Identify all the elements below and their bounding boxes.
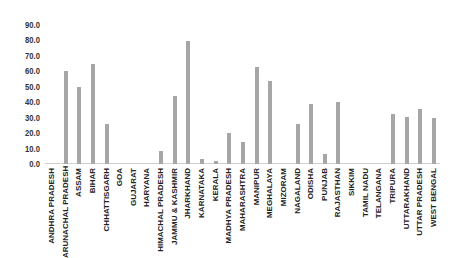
bar — [77, 87, 81, 164]
x-tick-label: TELANGANA — [374, 168, 384, 258]
x-tick-label: PUNJAB — [320, 168, 330, 258]
bar — [91, 64, 95, 164]
bar — [105, 124, 109, 164]
x-tick-label: ANDHRA PRADESH — [47, 168, 57, 258]
x-tick-label: GUJARAT — [129, 168, 139, 258]
bar — [418, 109, 422, 164]
x-tick-label: UTTAR PRADESH — [415, 168, 425, 258]
x-tick-label: RAJASTHAN — [333, 168, 343, 258]
y-tick-label: 60.0 — [6, 66, 40, 76]
x-tick-label: WEST BENGAL — [429, 168, 439, 258]
x-tick-label: ARUNACHAL PRADESH — [61, 168, 71, 258]
bar — [64, 71, 68, 164]
bar — [323, 154, 327, 164]
bar — [336, 102, 340, 164]
y-tick-label: 50.0 — [6, 82, 40, 92]
y-tick-label: 30.0 — [6, 113, 40, 123]
bar — [296, 124, 300, 164]
x-tick-label: JHARKHAND — [183, 168, 193, 258]
bar — [309, 104, 313, 164]
x-tick-label: NAGALAND — [293, 168, 303, 258]
x-tick-label: ASSAM — [74, 168, 84, 258]
x-tick-label: JAMMU & KASHMIR — [170, 168, 180, 258]
y-tick-label: 90.0 — [6, 20, 40, 30]
y-tick-label: 20.0 — [6, 128, 40, 138]
bar — [391, 114, 395, 164]
x-tick-label: BIHAR — [88, 168, 98, 258]
y-tick-label: 0.0 — [6, 159, 40, 169]
bar — [173, 96, 177, 164]
y-tick-label: 80.0 — [6, 35, 40, 45]
x-tick-label: TRIPURA — [388, 168, 398, 258]
x-tick-label: MADHYA PRADESH — [224, 168, 234, 258]
bar — [227, 133, 231, 164]
x-tick-label: MANIPUR — [252, 168, 262, 258]
y-tick-label: 10.0 — [6, 144, 40, 154]
y-tick-label: 40.0 — [6, 97, 40, 107]
x-tick-label: MAHARASHTRA — [238, 168, 248, 258]
x-tick-label: MEGHALAYA — [265, 168, 275, 258]
x-tick-label: MIZORAM — [279, 168, 289, 258]
bar — [268, 81, 272, 164]
bar — [241, 142, 245, 164]
x-tick-label: ODISHA — [306, 168, 316, 258]
x-tick-label: GOA — [115, 168, 125, 258]
x-tick-label: SIKKIM — [347, 168, 357, 258]
bar — [432, 118, 436, 164]
x-tick-label: HARYANA — [142, 168, 152, 258]
y-tick-label: 70.0 — [6, 51, 40, 61]
bar — [255, 67, 259, 164]
x-tick-label: TAMIL NADU — [361, 168, 371, 258]
x-tick-label: CHHATTISGARH — [102, 168, 112, 258]
x-tick-label: KERALA — [211, 168, 221, 258]
bar — [405, 117, 409, 164]
bar — [159, 151, 163, 164]
bar — [200, 159, 204, 164]
x-tick-label: UTTARAKHAND — [402, 168, 412, 258]
x-tick-label: KARNATAKA — [197, 168, 207, 258]
bar — [186, 41, 190, 164]
x-tick-label: HIMACHAL PRADESH — [156, 168, 166, 258]
bar — [214, 161, 218, 164]
